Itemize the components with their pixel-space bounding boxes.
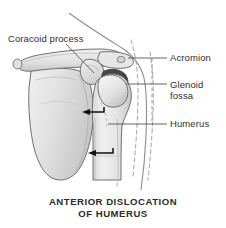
acromion-bone bbox=[98, 52, 134, 69]
label-glenoid-fossa: Glenoid fossa bbox=[170, 79, 203, 101]
scapula-bone bbox=[29, 68, 94, 180]
anterior-dislocation-figure: Coracoid process Acromion Glenoid fossa … bbox=[0, 0, 226, 228]
label-humerus: Humerus bbox=[170, 118, 209, 129]
label-acromion: Acromion bbox=[170, 52, 211, 63]
label-glenoid-fossa-line-2: fossa bbox=[170, 90, 203, 101]
label-glenoid-fossa-line-1: Glenoid bbox=[170, 79, 203, 90]
humerus-bone bbox=[92, 74, 131, 180]
caption-line-1: ANTERIOR DISLOCATION bbox=[0, 196, 226, 207]
caption-line-2: OF HUMERUS bbox=[0, 208, 226, 219]
label-coracoid-process: Coracoid process bbox=[8, 33, 84, 44]
